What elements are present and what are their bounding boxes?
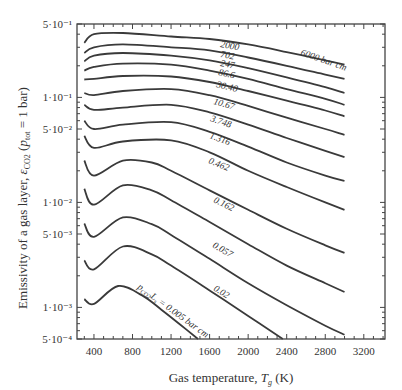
y-axis-title: Emissivity of a gas layer, εCO2 (ptot = … <box>15 87 32 309</box>
x-tick-label: 1600 <box>199 345 222 357</box>
curve-label-0.005: pCO2Ls = 0.005 bar cm <box>134 281 210 341</box>
curve-0-02 <box>84 246 282 339</box>
curve-702 <box>84 53 344 93</box>
x-tick-label: 800 <box>124 345 141 357</box>
x-tick-labels: 400800120016002000240028003200 <box>86 345 376 357</box>
y-tick-label: 1·10⁻³ <box>43 301 73 313</box>
emissivity-chart: 6000 bar cm200070224786.630.4010.673.748… <box>0 0 402 390</box>
curve-label: 1.316 <box>208 130 232 147</box>
curve-label: 0.057 <box>211 240 236 260</box>
curve-label: 30.40 <box>215 79 239 94</box>
curve-0-057 <box>84 217 344 335</box>
y-tick-label: 5·10⁻² <box>43 123 73 135</box>
y-tick-label: 5·10⁻⁴ <box>42 333 72 345</box>
y-tick-label: 1·10⁻¹ <box>43 91 72 103</box>
x-tick-label: 1200 <box>160 345 183 357</box>
x-tick-label: 2800 <box>314 345 337 357</box>
y-tick-label: 5·10⁻³ <box>43 228 73 240</box>
curve-label: 0.462 <box>207 156 231 173</box>
x-tick-label: 2000 <box>237 345 260 357</box>
curve-label: 6000 bar cm <box>299 47 348 72</box>
curve-3-748 <box>84 121 344 181</box>
y-tick-label: 5·10⁻¹ <box>43 18 72 30</box>
curve-label: 0.162 <box>212 195 236 213</box>
y-tick-labels: 5·10⁻¹1·10⁻¹5·10⁻²1·10⁻²5·10⁻³1·10⁻³5·10… <box>42 18 73 345</box>
y-tick-label: 1·10⁻² <box>43 196 73 208</box>
curve-label: 3.748 <box>208 113 233 130</box>
x-axis-title: Gas temperature, Tg (K) <box>169 370 294 387</box>
curve-label: 86.6 <box>218 67 237 80</box>
x-tick-label: 2400 <box>276 345 299 357</box>
x-tick-label: 400 <box>86 345 103 357</box>
curve-label: 10.67 <box>212 96 237 112</box>
x-tick-label: 3200 <box>353 345 376 357</box>
curve-0-462 <box>84 160 344 253</box>
